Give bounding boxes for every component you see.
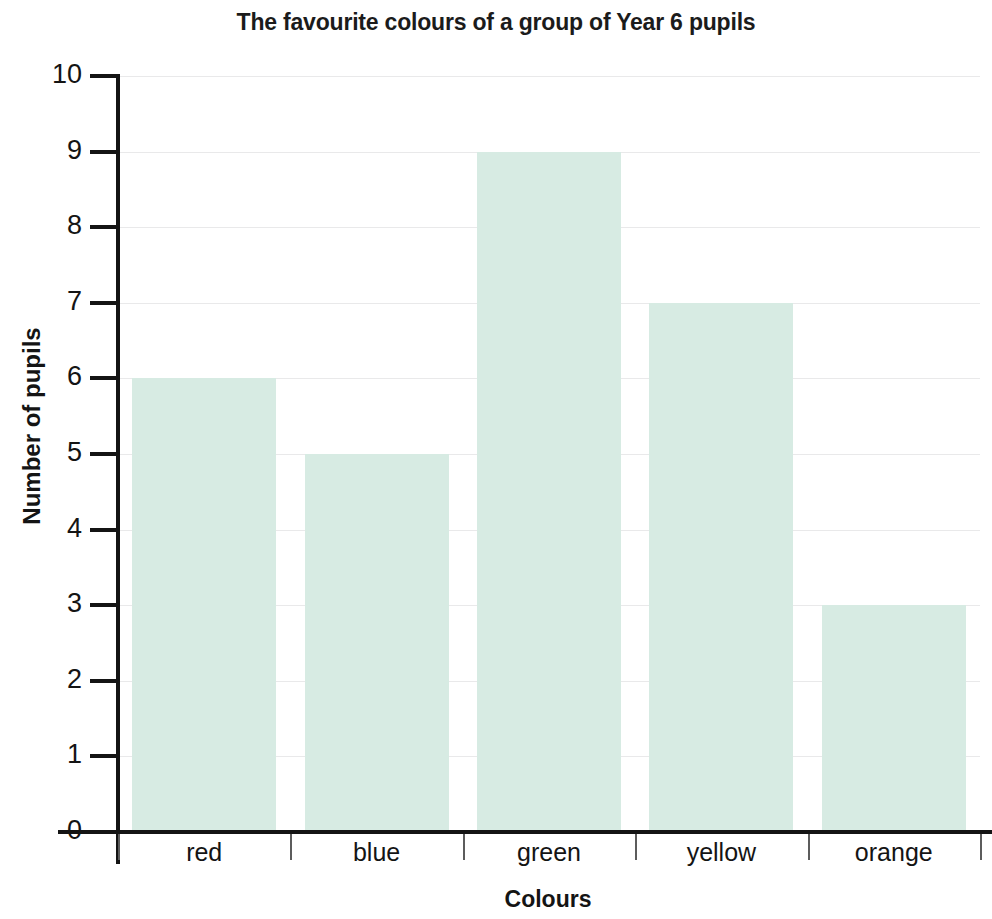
y-tick-label: 6 [30, 363, 82, 390]
y-tick [90, 301, 120, 305]
x-axis-title: Colours [118, 886, 978, 913]
x-tick-label-yellow: yellow [635, 838, 807, 867]
y-tick-label: 0 [30, 817, 82, 844]
y-tick [90, 528, 120, 532]
y-tick [90, 376, 120, 380]
y-tick-label: 8 [30, 212, 82, 239]
bar-red [132, 378, 276, 832]
y-tick-label: 7 [30, 288, 82, 315]
plot-area [118, 76, 980, 832]
x-tick-label-red: red [118, 838, 290, 867]
x-axis-line [58, 830, 992, 834]
y-tick [90, 150, 120, 154]
y-tick [90, 603, 120, 607]
y-tick [90, 830, 120, 834]
y-tick [90, 74, 120, 78]
bar-blue [305, 454, 449, 832]
y-tick [90, 679, 120, 683]
y-tick-label: 1 [30, 741, 82, 768]
y-tick [90, 754, 120, 758]
gridline [118, 76, 980, 77]
bar-yellow [649, 303, 793, 832]
y-axis-line [116, 74, 120, 864]
y-tick-label: 3 [30, 590, 82, 617]
y-tick-label: 5 [30, 439, 82, 466]
y-tick-label: 9 [30, 137, 82, 164]
y-tick-label: 2 [30, 666, 82, 693]
bar-chart: The favourite colours of a group of Year… [0, 0, 992, 919]
y-tick [90, 452, 120, 456]
y-tick-label: 10 [30, 61, 82, 88]
x-tick-label-orange: orange [808, 838, 980, 867]
x-tick-label-blue: blue [290, 838, 462, 867]
bar-orange [822, 605, 966, 832]
x-axis-separator [980, 834, 982, 860]
y-tick [90, 225, 120, 229]
x-tick-label-green: green [463, 838, 635, 867]
chart-title: The favourite colours of a group of Year… [0, 9, 992, 36]
y-tick-label: 4 [30, 515, 82, 542]
bar-green [477, 152, 621, 832]
